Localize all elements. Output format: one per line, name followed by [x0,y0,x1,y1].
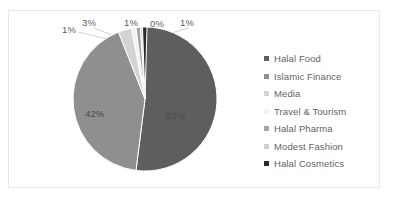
slice-label-travel-tourism: 1% [62,24,76,35]
slice-label-halal-food: 52% [166,110,185,121]
slice-label-media: 3% [82,17,96,28]
legend-item[interactable]: Islamic Finance [264,68,376,86]
legend-item-label: Halal Pharma [274,120,333,138]
legend-item-label: Halal Cosmetics [274,155,344,173]
legend-item[interactable]: Halal Food [264,50,376,68]
legend-item[interactable]: Modest Fashion [264,138,376,156]
slice-label-islamic-finance: 42% [85,108,104,119]
pie-slices-group [73,27,217,171]
slice-label-halal-cosmetics: 1% [180,17,194,28]
legend-item-label: Modest Fashion [274,138,343,156]
legend-item-label: Halal Food [274,50,321,68]
legend-swatch-icon [264,126,269,131]
legend-swatch-icon [264,144,269,149]
legend-swatch-icon [264,91,269,96]
legend-swatch-icon [264,56,269,61]
legend-swatch-icon [264,109,269,114]
legend-item-label: Media [274,85,300,103]
slice-label-halal-pharma: 1% [124,17,138,28]
chart-legend: Halal FoodIslamic FinanceMediaTravel & T… [264,50,376,173]
legend-swatch-icon [264,161,269,166]
legend-item-label: Travel & Tourism [274,103,346,121]
legend-item[interactable]: Halal Pharma [264,120,376,138]
legend-item-label: Islamic Finance [274,68,342,86]
legend-item[interactable]: Travel & Tourism [264,103,376,121]
pie-chart-plot-area: 1% 3% 1% 0% 1% 42% 52% Halal FoodIslamic… [0,0,394,211]
legend-swatch-icon [264,74,269,79]
slice-label-modest-fashion: 0% [150,18,164,29]
pie-chart-svg [60,16,240,181]
legend-item[interactable]: Media [264,85,376,103]
legend-item[interactable]: Halal Cosmetics [264,155,376,173]
pie-slice [136,27,217,171]
